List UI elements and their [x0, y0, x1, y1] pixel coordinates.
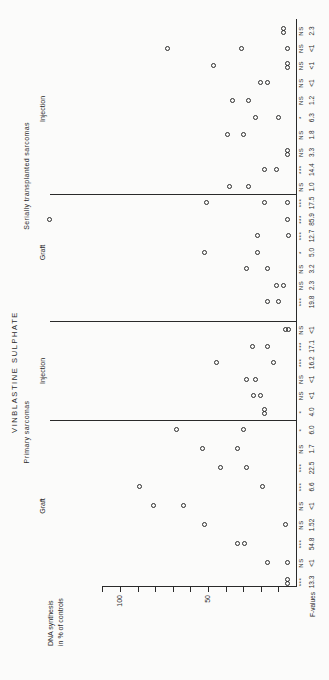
data-point — [242, 542, 247, 547]
f-value-label: <1 — [308, 318, 315, 342]
y-axis-tick-label: 50 — [204, 595, 211, 615]
data-point — [202, 523, 207, 528]
data-point — [285, 201, 290, 206]
data-point — [239, 46, 244, 51]
data-point — [253, 115, 258, 120]
chart-title: VINBLASTINE SULPHATE — [10, 282, 19, 462]
data-point — [246, 98, 251, 103]
y-axis-line — [102, 586, 297, 587]
subgroup-label: Injection — [39, 69, 46, 149]
significance-marker: NS — [298, 318, 304, 342]
data-point — [274, 167, 279, 172]
data-point — [250, 344, 255, 349]
y-axis-tick — [138, 587, 139, 592]
data-point — [251, 393, 256, 398]
data-point — [286, 328, 291, 333]
data-point — [265, 561, 270, 566]
data-point — [151, 504, 156, 509]
data-point — [211, 63, 216, 68]
data-point — [202, 250, 207, 255]
group-divider-line — [50, 321, 296, 322]
y-axis-tick-label: 100 — [116, 595, 123, 615]
y-axis-label: DNA synthesis in % of controls — [46, 598, 65, 646]
data-point — [281, 283, 286, 288]
data-point — [241, 428, 246, 433]
y-axis-tick — [155, 587, 156, 592]
data-point — [285, 217, 290, 222]
data-point — [235, 542, 240, 547]
data-point — [265, 81, 270, 86]
data-point — [246, 185, 251, 190]
group-divider-line — [50, 194, 296, 195]
y-axis-label-line1: DNA synthesis — [46, 598, 56, 646]
figure: VINBLASTINE SULPHATE DNA synthesis in % … — [0, 0, 329, 680]
data-point — [225, 133, 230, 138]
subgroup-label: Graft — [39, 213, 46, 293]
y-axis-tick — [208, 587, 209, 592]
data-point — [285, 46, 290, 51]
y-axis-tick — [278, 587, 279, 592]
data-point — [258, 81, 263, 86]
y-axis-tick — [226, 587, 227, 592]
data-point — [174, 428, 179, 433]
data-point — [230, 98, 235, 103]
subgroup-label: Graft — [39, 466, 46, 546]
data-point — [265, 300, 270, 305]
data-point — [137, 485, 142, 490]
data-point — [244, 466, 249, 471]
data-point — [262, 201, 267, 206]
data-point — [204, 201, 209, 206]
x-axis-label: F-values — [309, 592, 316, 652]
data-point — [265, 344, 270, 349]
data-point — [260, 485, 265, 490]
data-point — [285, 148, 290, 153]
y-axis-tick — [173, 587, 174, 592]
data-point — [244, 267, 249, 272]
group-label: Primary sarcomas — [23, 357, 30, 507]
subgroup-label: Injection — [39, 331, 46, 411]
y-axis-tick — [120, 587, 121, 592]
data-point — [285, 61, 290, 66]
data-point — [235, 447, 240, 452]
data-point — [218, 466, 223, 471]
data-point — [276, 115, 281, 120]
data-point — [200, 447, 205, 452]
data-point — [241, 133, 246, 138]
y-axis-tick — [102, 587, 103, 592]
y-axis-tick — [261, 587, 262, 592]
data-point — [262, 167, 267, 172]
data-point — [281, 31, 286, 36]
data-point — [274, 283, 279, 288]
data-point — [214, 360, 219, 365]
data-point — [262, 412, 267, 417]
y-axis-tick — [243, 587, 244, 592]
significance-marker: NS — [298, 19, 304, 43]
group-divider-line — [50, 420, 296, 421]
data-point — [283, 523, 288, 528]
data-point — [253, 377, 258, 382]
data-point — [285, 561, 290, 566]
data-point — [227, 185, 232, 190]
data-point — [255, 234, 260, 239]
y-axis-label-line2: in % of controls — [56, 598, 66, 646]
data-point — [258, 393, 263, 398]
data-point — [165, 46, 170, 51]
data-point — [265, 267, 270, 272]
group-label: Serially transplanted sarcomas — [23, 101, 30, 251]
data-point — [276, 300, 281, 305]
x-axis-line — [296, 19, 297, 587]
data-point — [286, 234, 291, 239]
data-point — [244, 377, 249, 382]
data-point — [271, 360, 276, 365]
y-axis-tick — [190, 587, 191, 592]
f-value-label: 2.3 — [308, 19, 315, 43]
data-point — [181, 504, 186, 509]
data-point — [255, 250, 260, 255]
data-point — [47, 217, 52, 222]
